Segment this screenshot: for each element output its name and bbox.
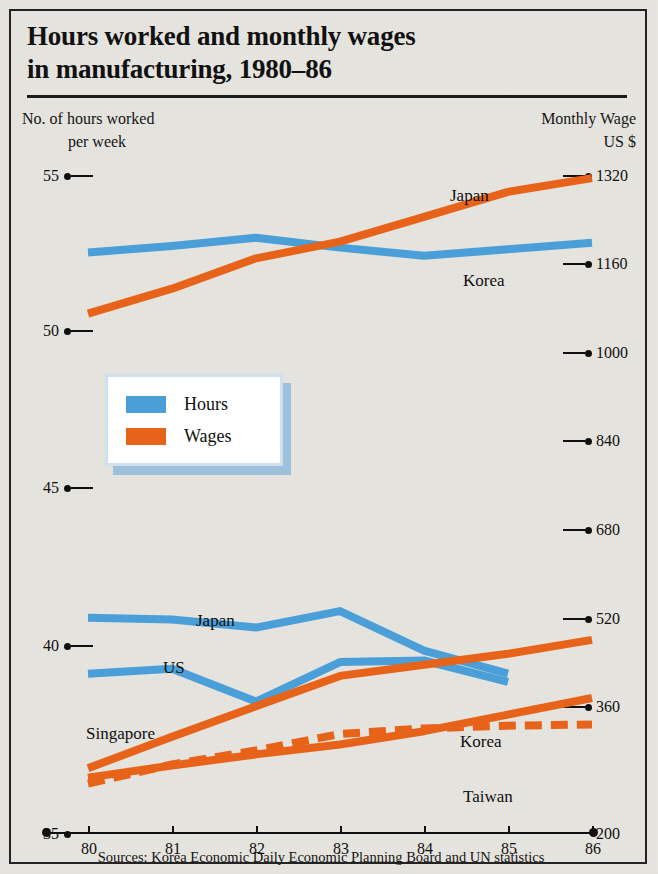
tick-dot-icon <box>64 643 71 650</box>
series-label-singapore-wages: Singapore <box>86 724 155 744</box>
right-axis-title-line-2: US $ <box>436 130 636 153</box>
tick-dot-icon <box>585 616 592 623</box>
y-tick-right-label: 680 <box>596 521 638 539</box>
title-divider <box>27 95 627 98</box>
left-axis-title-line-2: per week <box>22 130 172 153</box>
y-tick-left: 55 <box>33 167 93 185</box>
tick-dot-icon <box>585 704 592 711</box>
legend-label-wages: Wages <box>184 426 232 447</box>
y-tick-right: 680 <box>563 521 638 539</box>
tick-dash-icon <box>71 175 93 177</box>
tick-dash-icon <box>563 618 585 620</box>
legend-item-wages: Wages <box>126 420 280 452</box>
tick-dash-icon <box>563 175 585 177</box>
page-title: Hours worked and monthly wages in manufa… <box>27 20 527 86</box>
y-tick-right: 360 <box>563 698 638 716</box>
title-line-1: Hours worked and monthly wages <box>27 21 416 51</box>
x-tick <box>256 826 258 834</box>
tick-dot-icon <box>585 527 592 534</box>
chart-legend: Hours Wages <box>105 374 283 466</box>
y-tick-right-label: 1000 <box>596 344 638 362</box>
y-tick-left-label: 45 <box>33 479 59 497</box>
y-tick-left-label: 55 <box>33 167 59 185</box>
x-tick <box>508 826 510 834</box>
tick-dot-icon <box>585 261 592 268</box>
tick-dash-icon <box>71 487 93 489</box>
right-axis-title: Monthly Wage US $ <box>436 107 636 153</box>
y-tick-left: 45 <box>33 479 93 497</box>
series-label-us-hours: US <box>163 658 185 678</box>
x-tick <box>424 826 426 834</box>
series-label-taiwan-wages: Taiwan <box>463 787 513 807</box>
series-label-korea-hours: Korea <box>463 271 505 291</box>
y-tick-right-label: 520 <box>596 610 638 628</box>
y-tick-right: 840 <box>563 432 638 450</box>
tick-dash-icon <box>563 440 585 442</box>
tick-dot-icon <box>64 173 71 180</box>
y-tick-left: 35 <box>33 825 71 843</box>
y-tick-right-label: 360 <box>596 698 638 716</box>
tick-dash-icon <box>563 706 585 708</box>
y-tick-right-label: 1160 <box>596 255 638 273</box>
left-axis-title-line-1: No. of hours worked <box>22 107 252 130</box>
y-tick-left: 50 <box>33 322 93 340</box>
tick-dash-icon <box>563 263 585 265</box>
y-tick-right: 1320 <box>563 167 638 185</box>
tick-dash-icon <box>71 330 93 332</box>
title-line-2: in manufacturing, 1980–86 <box>27 54 332 84</box>
y-tick-left-label: 40 <box>33 637 59 655</box>
y-tick-right-label: 200 <box>596 825 638 843</box>
right-axis-title-line-1: Monthly Wage <box>436 107 636 130</box>
y-tick-right: 1160 <box>563 255 638 273</box>
series-label-japan-hours: Japan <box>196 611 235 631</box>
tick-dash-icon <box>71 645 93 647</box>
series-label-japan-wages: Japan <box>450 186 489 206</box>
y-tick-left-label: 50 <box>33 322 59 340</box>
legend-swatch-hours <box>126 396 166 413</box>
tick-dot-icon <box>64 485 71 492</box>
source-note: Sources: Korea Economic Daily Economic P… <box>0 849 642 866</box>
x-tick <box>172 826 174 834</box>
legend-label-hours: Hours <box>184 394 228 415</box>
tick-dot-icon <box>585 438 592 445</box>
tick-dash-icon <box>563 352 585 354</box>
tick-dash-icon <box>563 529 585 531</box>
tick-dot-icon <box>585 350 592 357</box>
tick-dot-icon <box>585 173 592 180</box>
x-tick <box>340 826 342 834</box>
y-tick-right-label: 840 <box>596 432 638 450</box>
y-tick-right-label: 1320 <box>596 167 638 185</box>
series-label-korea-wages: Korea <box>460 732 502 752</box>
tick-dot-icon <box>64 328 71 335</box>
left-axis-title: No. of hours worked per week <box>22 107 252 153</box>
x-tick <box>88 826 90 834</box>
y-tick-left: 40 <box>33 637 93 655</box>
chart-page: Hours worked and monthly wages in manufa… <box>0 0 658 874</box>
legend-swatch-wages <box>126 428 166 445</box>
x-tick <box>592 826 594 834</box>
legend-item-hours: Hours <box>126 388 280 420</box>
y-tick-right: 520 <box>563 610 638 628</box>
x-axis-start-dot-icon <box>42 828 51 837</box>
x-axis-line <box>45 832 594 834</box>
y-tick-right: 1000 <box>563 344 638 362</box>
